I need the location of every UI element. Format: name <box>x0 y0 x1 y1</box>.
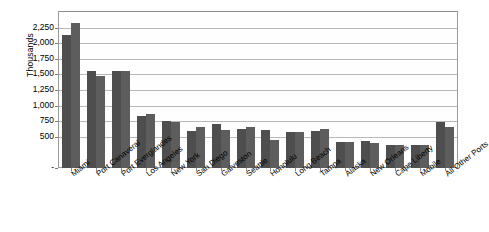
bar-group <box>233 12 258 168</box>
bar-group <box>84 12 109 168</box>
y-axis-tick-label: 1,250 <box>2 85 54 94</box>
bar-group <box>258 12 283 168</box>
y-axis-tick-label: 2,000 <box>2 38 54 47</box>
bar <box>87 71 96 168</box>
bar-group <box>59 12 84 168</box>
bar-group <box>432 12 457 168</box>
bar <box>246 127 255 168</box>
bar-group <box>358 12 383 168</box>
bar <box>96 76 105 168</box>
bar <box>445 127 454 168</box>
bar-group <box>283 12 308 168</box>
y-axis-tick-label: 2,250 <box>2 23 54 32</box>
y-axis-tick-label: 1,000 <box>2 101 54 110</box>
bar <box>196 127 205 168</box>
bar <box>62 35 71 168</box>
bar <box>71 23 80 168</box>
y-axis-tick-label: 500 <box>2 132 54 141</box>
y-axis-tick-label: 1,500 <box>2 69 54 78</box>
y-axis-tick-label: 750 <box>2 116 54 125</box>
y-axis-tick-label: 1,750 <box>2 54 54 63</box>
bar-group <box>183 12 208 168</box>
bar-group <box>308 12 333 168</box>
x-axis-category-labels: MiamiPort CanaveralPort EverglandesLos A… <box>0 168 467 232</box>
bar-group <box>333 12 358 168</box>
bar-series-layer <box>59 12 457 168</box>
bar-group <box>208 12 233 168</box>
